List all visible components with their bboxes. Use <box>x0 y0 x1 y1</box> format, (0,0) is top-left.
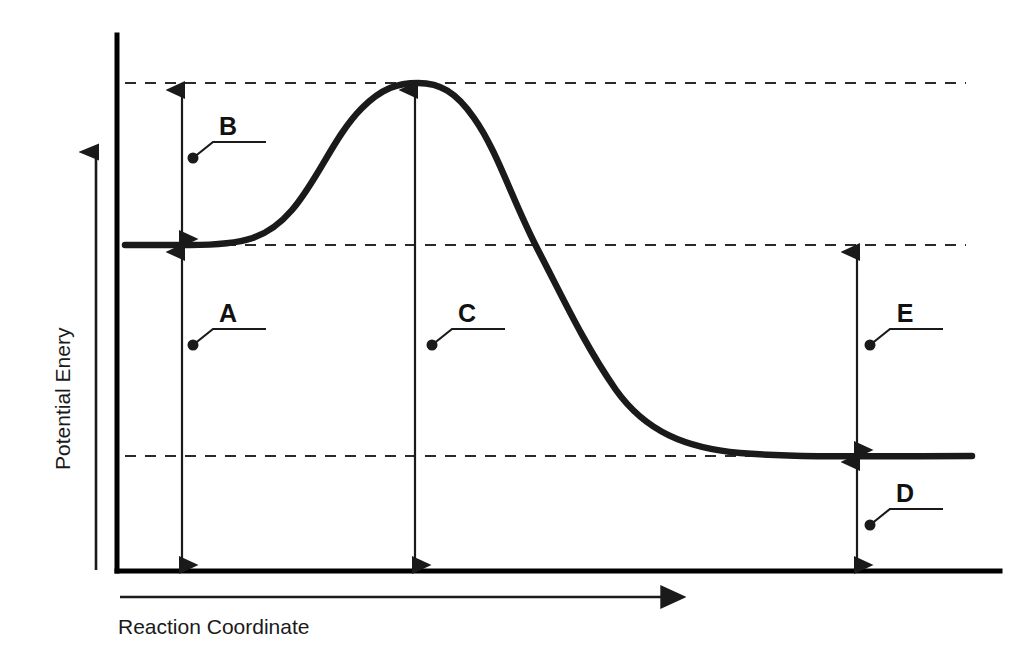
leader-a <box>188 329 267 351</box>
leader-dot-b <box>188 153 199 164</box>
chart-canvas: B A C E D Potential Enery Reaction Coord… <box>0 0 1010 659</box>
y-axis-title: Potential Enery <box>51 327 74 470</box>
potential-energy-diagram: B A C E D Potential Enery Reaction Coord… <box>0 0 1010 659</box>
reaction-pathway-curve <box>125 83 972 456</box>
leader-c <box>427 329 506 351</box>
leader-d <box>865 509 944 531</box>
label-a: A <box>219 299 237 327</box>
leader-dot-a <box>188 340 199 351</box>
x-axis-title: Reaction Coordinate <box>118 615 309 638</box>
label-d: D <box>896 479 914 507</box>
leader-dot-e <box>865 340 876 351</box>
measurement-arrows <box>182 90 857 565</box>
axis-titles: Potential Enery Reaction Coordinate <box>51 327 309 638</box>
leader-b <box>188 142 267 164</box>
label-c: C <box>458 299 476 327</box>
leader-dot-d <box>865 520 876 531</box>
label-b: B <box>219 112 237 140</box>
leader-dot-c <box>427 340 438 351</box>
label-e: E <box>897 299 914 327</box>
leader-e <box>865 329 944 351</box>
